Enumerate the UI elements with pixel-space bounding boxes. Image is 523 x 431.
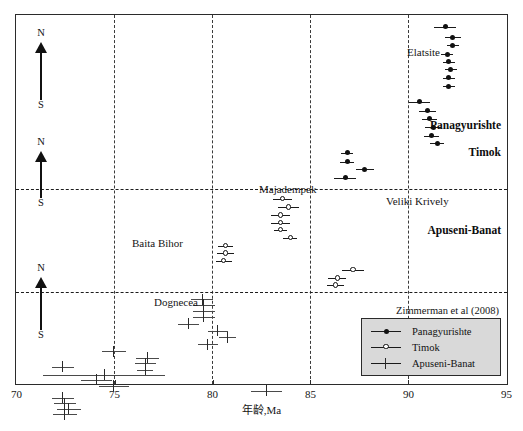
marker-filled-circle-icon: [362, 167, 367, 172]
x-tick-label-85: 85: [305, 388, 316, 400]
x-tick-mark-80: [213, 380, 214, 385]
x-tick-mark-85: [310, 380, 311, 385]
marker-cross-tick-icon: [147, 352, 148, 363]
deposit-label-veliki-krively: Veliki Krively: [386, 195, 449, 207]
marker-filled-circle-icon: [448, 67, 453, 72]
legend: Panagyurishte Timok Apuseni-Banat: [361, 318, 501, 376]
marker-cross-tick-icon: [145, 364, 146, 375]
marker-filled-circle-icon: [443, 24, 448, 29]
compass-south-label: S: [28, 99, 54, 110]
marker-cross-tick-icon: [202, 294, 203, 305]
marker-open-circle-icon: [223, 250, 228, 255]
marker-filled-circle-icon: [450, 43, 455, 48]
region-title-apuseni-banat: Apuseni-Banat: [428, 224, 502, 236]
marker-filled-circle-icon: [446, 59, 451, 64]
marker-open-circle-icon: [333, 282, 338, 287]
marker-open-circle-icon: [278, 220, 283, 225]
x-tick-label-90: 90: [403, 388, 414, 400]
plot-frame: N S N S N S Panagyurishte Timok Apuseni-…: [15, 14, 508, 385]
compass-shaft: [40, 160, 42, 198]
marker-cross-tick-icon: [96, 374, 97, 385]
gridline-x-80: [212, 15, 213, 384]
deposit-label-baita-bihor: Baita Bihor: [132, 237, 183, 249]
figure-canvas: N S N S N S Panagyurishte Timok Apuseni-…: [0, 0, 523, 431]
marker-filled-circle-icon: [445, 52, 450, 57]
compass-north-label: N: [28, 27, 54, 38]
marker-open-circle-icon: [221, 258, 226, 263]
deposit-label-dognecea: Dognecea: [154, 296, 198, 308]
compass-apuseni-banat: N S: [28, 262, 54, 357]
marker-cross-tick-icon: [188, 318, 189, 329]
marker-filled-circle-icon: [435, 141, 440, 146]
marker-cross-tick-icon: [113, 346, 114, 357]
region-title-panagyurishte: Panagyurishte: [430, 119, 501, 131]
region-title-timok: Timok: [469, 146, 501, 158]
x-tick-label-70: 70: [11, 388, 22, 400]
legend-symbol-open-circle: [368, 339, 408, 355]
x-tick-mark-90: [408, 380, 409, 385]
x-tick-label-95: 95: [501, 388, 512, 400]
legend-label: Timok: [408, 342, 440, 353]
x-axis-label: 年龄,Ma: [0, 401, 523, 417]
x-tick-label-75: 75: [109, 388, 120, 400]
legend-symbol-cross-tick: [368, 355, 408, 371]
marker-filled-circle-icon: [425, 108, 430, 113]
deposit-label-elatsite: Elatsite: [407, 46, 440, 58]
x-tick-mark-75: [115, 380, 116, 385]
source-citation: Zimmerman et al (2008): [396, 305, 499, 316]
marker-filled-circle-icon: [343, 175, 348, 180]
legend-item-panagyurishte: Panagyurishte: [368, 323, 492, 339]
compass-south-label: S: [28, 197, 54, 208]
x-tick-label-80: 80: [207, 388, 218, 400]
marker-filled-circle-icon: [345, 159, 350, 164]
marker-filled-circle-icon: [429, 133, 434, 138]
marker-open-circle-icon: [280, 196, 285, 201]
compass-shaft: [40, 51, 42, 100]
legend-symbol-filled-circle: [368, 323, 408, 339]
marker-filled-circle-icon: [446, 84, 451, 89]
marker-cross-tick-icon: [266, 385, 267, 396]
marker-cross-tick-icon: [227, 332, 228, 343]
marker-open-circle-icon: [278, 212, 283, 217]
compass-panagyurishte: N S: [28, 27, 54, 117]
gridline-x-75: [114, 15, 115, 384]
legend-item-apuseni-banat: Apuseni-Banat: [368, 355, 492, 371]
marker-cross-tick-icon: [207, 339, 208, 350]
legend-item-timok: Timok: [368, 339, 492, 355]
region-separator-1: [16, 292, 507, 293]
marker-open-circle-icon: [288, 235, 293, 240]
marker-open-circle-icon: [223, 243, 228, 248]
deposit-label-majadempek: Majadempek: [259, 183, 316, 195]
marker-open-circle-icon: [350, 267, 355, 272]
marker-filled-circle-icon: [450, 35, 455, 40]
marker-open-circle-icon: [278, 227, 283, 232]
gridline-x-85: [310, 15, 311, 384]
compass-shaft: [40, 286, 42, 330]
marker-filled-circle-icon: [417, 99, 422, 104]
marker-cross-tick-icon: [203, 311, 204, 322]
marker-open-circle-icon: [335, 275, 340, 280]
compass-south-label: S: [28, 329, 54, 340]
marker-filled-circle-icon: [446, 75, 451, 80]
marker-filled-circle-icon: [345, 150, 350, 155]
marker-cross-tick-icon: [217, 325, 218, 336]
marker-cross-tick-icon: [62, 361, 63, 372]
marker-cross-tick-icon: [104, 369, 105, 380]
compass-north-label: N: [28, 136, 54, 147]
marker-open-circle-icon: [286, 204, 291, 209]
legend-label: Panagyurishte: [408, 326, 472, 337]
legend-label: Apuseni-Banat: [408, 358, 475, 369]
compass-north-label: N: [28, 262, 54, 273]
compass-timok: N S: [28, 136, 54, 216]
